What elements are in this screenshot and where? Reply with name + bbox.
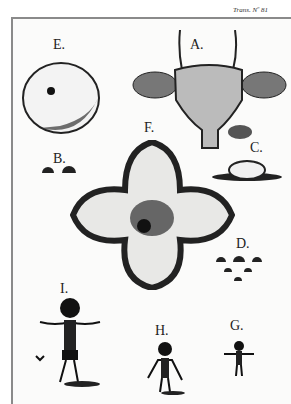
figure-h-skeleton	[140, 340, 195, 395]
figure-i-skeleton	[30, 296, 110, 388]
figure-d-bodies	[214, 253, 264, 283]
figure-g-label: G.	[230, 318, 244, 334]
figure-i-label: I.	[60, 281, 68, 297]
figure-f-label: F.	[144, 120, 154, 136]
figure-f-placenta	[70, 140, 235, 290]
figure-e-label: E.	[53, 37, 65, 53]
figure-g-skeleton	[220, 340, 260, 380]
figure-e-sphere	[20, 58, 102, 138]
figure-h-label: H.	[155, 323, 169, 339]
figure-d-label: D.	[236, 236, 250, 252]
figure-c-label: C.	[250, 140, 263, 156]
plate-header-note: Trans. Nº 81	[233, 6, 268, 14]
